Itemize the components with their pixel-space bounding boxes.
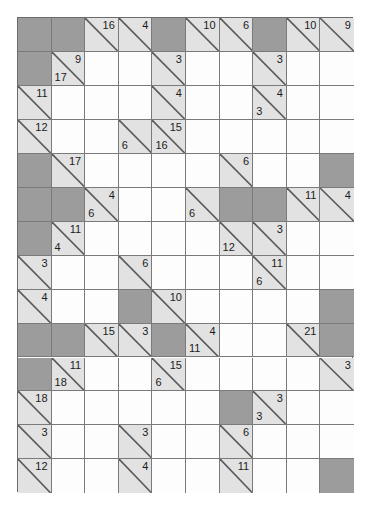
- clue-down-value-r1-c7: 3: [277, 54, 283, 65]
- cell-empty-r12-c5[interactable]: [186, 425, 220, 459]
- cell-empty-r2-c9[interactable]: [320, 86, 354, 120]
- cell-empty-r7-c8[interactable]: [287, 256, 321, 290]
- cell-clue-r3-c0: 12: [18, 120, 52, 154]
- cell-empty-r7-c4[interactable]: [152, 256, 186, 290]
- cell-empty-r12-c9[interactable]: [320, 425, 354, 459]
- cell-empty-r1-c5[interactable]: [186, 52, 220, 86]
- cell-empty-r10-c7[interactable]: [253, 358, 287, 392]
- cell-block-r9-c9: [320, 324, 354, 358]
- cell-clue-r0-c5: 10: [186, 18, 220, 52]
- cell-clue-r1-c7: 3: [253, 52, 287, 86]
- clue-down-value-r12-c6: 6: [243, 427, 249, 438]
- cell-clue-r1-c1: 917: [52, 52, 86, 86]
- cell-empty-r2-c6[interactable]: [220, 86, 254, 120]
- clue-down-value-r0-c6: 6: [243, 20, 249, 31]
- cell-empty-r1-c2[interactable]: [85, 52, 119, 86]
- cell-empty-r12-c7[interactable]: [253, 425, 287, 459]
- cell-clue-r0-c3: 4: [119, 18, 153, 52]
- cell-empty-r3-c1[interactable]: [52, 120, 86, 154]
- cell-empty-r8-c1[interactable]: [52, 290, 86, 324]
- cell-empty-r11-c3[interactable]: [119, 391, 153, 425]
- cell-empty-r1-c9[interactable]: [320, 52, 354, 86]
- cell-empty-r4-c5[interactable]: [186, 154, 220, 188]
- cell-empty-r10-c3[interactable]: [119, 358, 153, 392]
- cell-empty-r3-c5[interactable]: [186, 120, 220, 154]
- cell-empty-r13-c2[interactable]: [85, 459, 119, 493]
- cell-empty-r1-c8[interactable]: [287, 52, 321, 86]
- cell-empty-r7-c2[interactable]: [85, 256, 119, 290]
- cell-empty-r2-c5[interactable]: [186, 86, 220, 120]
- cell-empty-r7-c9[interactable]: [320, 256, 354, 290]
- cell-empty-r11-c8[interactable]: [287, 391, 321, 425]
- cell-empty-r5-c3[interactable]: [119, 188, 153, 222]
- cell-empty-r9-c7[interactable]: [253, 324, 287, 358]
- cell-empty-r1-c3[interactable]: [119, 52, 153, 86]
- cell-clue-r11-c7: 33: [253, 391, 287, 425]
- clue-across-value-r9-c5: 11: [189, 343, 200, 354]
- cell-empty-r7-c1[interactable]: [52, 256, 86, 290]
- cell-empty-r6-c9[interactable]: [320, 222, 354, 256]
- clue-across-value-r5-c5: 6: [189, 208, 195, 219]
- cell-empty-r12-c1[interactable]: [52, 425, 86, 459]
- cell-empty-r4-c8[interactable]: [287, 154, 321, 188]
- cell-empty-r6-c3[interactable]: [119, 222, 153, 256]
- cell-empty-r4-c2[interactable]: [85, 154, 119, 188]
- clue-across-value-r6-c1: 4: [55, 242, 61, 253]
- cell-clue-r5-c8: 11: [287, 188, 321, 222]
- cell-empty-r13-c1[interactable]: [52, 459, 86, 493]
- cell-empty-r3-c6[interactable]: [220, 120, 254, 154]
- cell-empty-r5-c4[interactable]: [152, 188, 186, 222]
- cell-empty-r12-c8[interactable]: [287, 425, 321, 459]
- cell-empty-r11-c4[interactable]: [152, 391, 186, 425]
- cell-empty-r2-c1[interactable]: [52, 86, 86, 120]
- cell-block-r0-c0: [18, 18, 52, 52]
- cell-empty-r10-c6[interactable]: [220, 358, 254, 392]
- cell-empty-r1-c6[interactable]: [220, 52, 254, 86]
- cell-empty-r8-c6[interactable]: [220, 290, 254, 324]
- cell-empty-r6-c5[interactable]: [186, 222, 220, 256]
- cell-empty-r4-c7[interactable]: [253, 154, 287, 188]
- cell-empty-r3-c9[interactable]: [320, 120, 354, 154]
- cell-empty-r8-c5[interactable]: [186, 290, 220, 324]
- cell-empty-r11-c1[interactable]: [52, 391, 86, 425]
- cell-empty-r3-c7[interactable]: [253, 120, 287, 154]
- cell-empty-r13-c4[interactable]: [152, 459, 186, 493]
- clue-across-value-r3-c3: 6: [122, 140, 128, 151]
- cell-empty-r11-c5[interactable]: [186, 391, 220, 425]
- cell-clue-r5-c2: 46: [85, 188, 119, 222]
- cell-empty-r3-c2[interactable]: [85, 120, 119, 154]
- cell-empty-r9-c6[interactable]: [220, 324, 254, 358]
- cell-empty-r3-c8[interactable]: [287, 120, 321, 154]
- cell-empty-r10-c5[interactable]: [186, 358, 220, 392]
- cell-empty-r7-c6[interactable]: [220, 256, 254, 290]
- cell-empty-r6-c2[interactable]: [85, 222, 119, 256]
- cell-empty-r6-c8[interactable]: [287, 222, 321, 256]
- cell-empty-r11-c9[interactable]: [320, 391, 354, 425]
- cell-empty-r7-c5[interactable]: [186, 256, 220, 290]
- cell-empty-r10-c2[interactable]: [85, 358, 119, 392]
- cell-empty-r10-c8[interactable]: [287, 358, 321, 392]
- cell-empty-r6-c4[interactable]: [152, 222, 186, 256]
- clue-across-value-r10-c4: 6: [155, 377, 161, 388]
- cell-empty-r13-c7[interactable]: [253, 459, 287, 493]
- kakuro-grid[interactable]: 1641061099173311443126151617646611411412…: [17, 17, 353, 492]
- clue-down-value-r7-c3: 6: [142, 258, 148, 269]
- cell-empty-r13-c5[interactable]: [186, 459, 220, 493]
- cell-empty-r8-c2[interactable]: [85, 290, 119, 324]
- cell-clue-r3-c3: 6: [119, 120, 153, 154]
- cell-empty-r4-c4[interactable]: [152, 154, 186, 188]
- cell-empty-r2-c3[interactable]: [119, 86, 153, 120]
- cell-empty-r2-c2[interactable]: [85, 86, 119, 120]
- cell-empty-r8-c8[interactable]: [287, 290, 321, 324]
- clue-down-value-r10-c9: 3: [345, 360, 351, 371]
- cell-empty-r11-c2[interactable]: [85, 391, 119, 425]
- cell-empty-r2-c8[interactable]: [287, 86, 321, 120]
- cell-block-r9-c4: [152, 324, 186, 358]
- clue-down-value-r5-c2: 4: [109, 190, 115, 201]
- cell-empty-r8-c7[interactable]: [253, 290, 287, 324]
- cell-empty-r12-c2[interactable]: [85, 425, 119, 459]
- cell-empty-r13-c8[interactable]: [287, 459, 321, 493]
- cell-empty-r12-c4[interactable]: [152, 425, 186, 459]
- clue-down-value-r2-c4: 4: [176, 88, 182, 99]
- cell-empty-r4-c3[interactable]: [119, 154, 153, 188]
